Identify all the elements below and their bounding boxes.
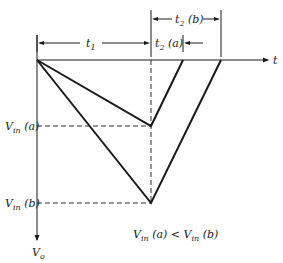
vo-axis-label: Vo bbox=[32, 246, 45, 261]
time-axis-label: t bbox=[273, 54, 278, 67]
t2a-label: t2 (a) bbox=[155, 37, 183, 52]
waveform-a bbox=[37, 60, 183, 126]
t2a-dimension: t2 (a) bbox=[155, 37, 203, 52]
t1-label: t1 bbox=[86, 37, 96, 52]
t2b-label: t2 (b) bbox=[175, 13, 204, 28]
vin-a-label: Vin (a) bbox=[5, 120, 39, 135]
vin-b-label: Vin (b) bbox=[5, 197, 40, 212]
time-axis: t bbox=[37, 54, 278, 67]
relation-caption: Vin (a) < Vin (b) bbox=[133, 228, 218, 243]
t2b-dimension: t2 (b) bbox=[152, 13, 220, 28]
waveform-b bbox=[37, 60, 221, 203]
dual-slope-waveform-diagram: t Vo t1 t2 (a) t2 bbox=[0, 0, 283, 263]
t1-dimension: t1 bbox=[38, 37, 150, 52]
